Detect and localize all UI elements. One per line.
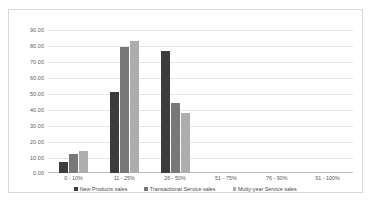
- bar-series2: [181, 113, 190, 173]
- chart-container: 90.00 80.00 70.00 60.00 50.00 40.00 30.0…: [8, 9, 363, 193]
- y-tick-label: 40.00: [30, 107, 44, 113]
- bar-series1: [120, 47, 129, 173]
- bar-series0: [59, 162, 68, 173]
- y-tick-label: 10.00: [30, 155, 44, 161]
- bar-groups: [48, 21, 353, 173]
- y-tick-label: 60.00: [30, 75, 44, 81]
- x-tick-label: 76 - 90%: [251, 175, 302, 181]
- y-tick-label: 90.00: [30, 27, 44, 33]
- y-tick-label: 50.00: [30, 91, 44, 97]
- bar-series0: [161, 51, 170, 173]
- y-tick-label: 30.00: [30, 123, 44, 129]
- bar-group: [251, 21, 302, 173]
- bar-series1: [171, 103, 180, 173]
- x-axis-labels: 0 - 10% 11 - 25% 26 - 50% 51 - 75% 76 - …: [48, 175, 353, 181]
- x-tick-label: 11 - 25%: [99, 175, 150, 181]
- bar-group: [48, 21, 99, 173]
- x-tick-label: 91 - 100%: [302, 175, 353, 181]
- chart-legend: New Products sales Transactional Service…: [9, 186, 362, 192]
- legend-swatch-icon: [144, 187, 148, 191]
- legend-item-transactional-service-sales[interactable]: Transactional Service sales: [144, 186, 215, 192]
- bar-series2: [130, 41, 139, 173]
- bar-series0: [110, 92, 119, 173]
- bar-group: [200, 21, 251, 173]
- y-tick-label: 70.00: [30, 59, 44, 65]
- x-tick-label: 0 - 10%: [48, 175, 99, 181]
- legend-swatch-icon: [233, 187, 237, 191]
- bar-series1: [69, 154, 78, 173]
- legend-item-new-products-sales[interactable]: New Products sales: [74, 186, 127, 192]
- bar-group: [150, 21, 201, 173]
- bar-group: [302, 21, 353, 173]
- y-tick-label: 20.00: [30, 139, 44, 145]
- x-tick-label: 26 - 50%: [150, 175, 201, 181]
- legend-swatch-icon: [74, 187, 78, 191]
- x-tick-label: 51 - 75%: [200, 175, 251, 181]
- legend-label: Multy-year Service sales: [238, 186, 297, 192]
- plot-area: 90.00 80.00 70.00 60.00 50.00 40.00 30.0…: [48, 21, 353, 173]
- bar-group: [99, 21, 150, 173]
- y-tick-label: 0.00: [33, 170, 44, 176]
- legend-label: New Products sales: [80, 186, 128, 192]
- legend-item-multy-year-service-sales[interactable]: Multy-year Service sales: [233, 186, 297, 192]
- legend-label: Transactional Service sales: [150, 186, 216, 192]
- bar-series2: [79, 151, 88, 173]
- y-tick-label: 80.00: [30, 43, 44, 49]
